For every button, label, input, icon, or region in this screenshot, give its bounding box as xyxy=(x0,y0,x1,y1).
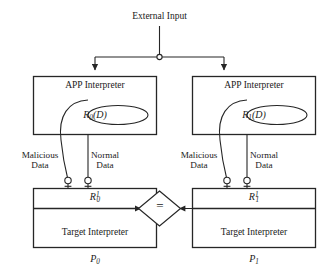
left-app-interpreter-label: APP Interpreter xyxy=(33,80,157,90)
right-malicious-data-label: Malicious Data xyxy=(168,151,230,171)
right-normal-data-label: Normal Data xyxy=(233,151,295,171)
left-target-interpreter-label: Target Interpreter xyxy=(33,227,157,237)
left-normal-port-icon xyxy=(85,177,92,188)
right-app-interpreter-label: APP Interpreter xyxy=(192,80,316,90)
left-rewrite-oval-label: R0(D) xyxy=(33,109,157,122)
right-normal-port-icon xyxy=(244,177,251,188)
left-result-label: R10 xyxy=(33,191,157,204)
left-malicious-data-label: Malicious Data xyxy=(9,151,71,171)
external-input-connector xyxy=(95,26,224,70)
right-malicious-port-icon xyxy=(224,177,231,188)
right-target-interpreter-label: Target Interpreter xyxy=(192,227,316,237)
left-malicious-port-icon xyxy=(65,177,72,188)
external-input-label: External Input xyxy=(0,11,319,21)
left-process-label: P0 xyxy=(33,253,157,266)
right-rewrite-oval-label: R1(D) xyxy=(192,109,316,122)
left-normal-data-label: Normal Data xyxy=(74,151,136,171)
architecture-diagram: External Input = APP Interpreter R0(D) M… xyxy=(0,0,319,277)
junction-dot-icon xyxy=(157,54,162,59)
right-process-label: P1 xyxy=(192,253,316,266)
right-result-label: R11 xyxy=(192,191,316,204)
